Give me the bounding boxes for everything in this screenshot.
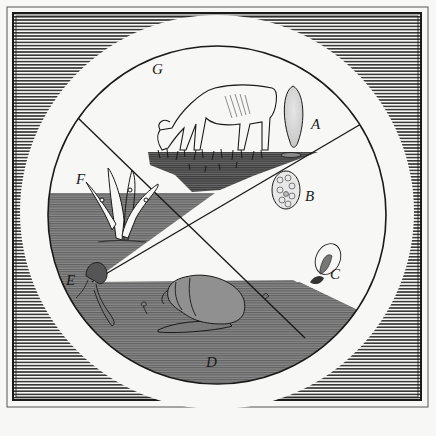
liver-fluke-life-cycle-diagram xyxy=(0,0,436,436)
egg-B xyxy=(272,171,300,209)
